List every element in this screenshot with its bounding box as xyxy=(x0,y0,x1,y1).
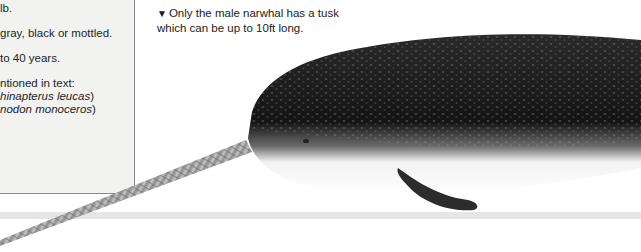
triangle-down-icon: ▼ xyxy=(157,8,167,19)
illustration-caption: ▼Only the male narwhal has a tusk which … xyxy=(157,6,339,35)
narwhal-illustration xyxy=(0,0,641,252)
narwhal-body xyxy=(248,34,641,194)
narwhal-tusk xyxy=(0,140,252,246)
caption-line-1: Only the male narwhal has a tusk xyxy=(169,7,339,19)
caption-line-2: which can be up to 10ft long. xyxy=(157,22,303,34)
